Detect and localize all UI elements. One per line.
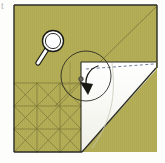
detail-anchor-dot: [79, 77, 84, 82]
origami-diagram-canvas: [0, 0, 165, 163]
corner-artifact-mark: t: [1, 0, 9, 12]
magnifier-lens-inner: [45, 33, 60, 48]
origami-figure: Origami fold step diagram Square sheet w…: [0, 0, 165, 163]
